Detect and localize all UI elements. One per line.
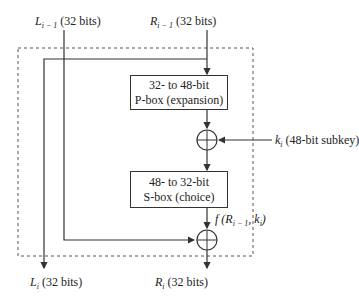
pbox-line1: 32- to 48-bit: [131, 78, 227, 93]
function-subscript: i − 1: [233, 219, 249, 228]
function-suffix: ): [262, 212, 266, 226]
left-input-label: Li − 1 (32 bits): [35, 14, 101, 33]
xor-output-icon: [197, 230, 217, 250]
right-output-bits: (32 bits): [168, 275, 208, 289]
xor-subkey-icon: [197, 130, 217, 150]
left-input-subscript: i − 1: [42, 21, 58, 30]
right-input-label: Ri − 1 (32 bits): [150, 14, 216, 33]
left-input-bits: (32 bits): [60, 14, 100, 28]
pbox-line2: P-box (expansion): [131, 93, 227, 108]
subkey-subscript: i: [280, 140, 282, 149]
right-output-label: Ri (32 bits): [155, 275, 208, 294]
function-label: f (Ri − 1, ki): [215, 212, 266, 231]
pbox-expansion: 32- to 48-bit P-box (expansion): [130, 75, 228, 110]
function-prefix: f (R: [215, 212, 233, 226]
right-input-subscript: i − 1: [157, 21, 173, 30]
left-output-symbol: L: [30, 275, 37, 289]
right-input-bits: (32 bits): [176, 14, 216, 28]
left-input-symbol: L: [35, 14, 42, 28]
left-output-bits: (32 bits): [42, 275, 82, 289]
sbox-choice: 48- to 32-bit S-box (choice): [130, 171, 228, 208]
subkey-text: (48-bit subkey): [286, 133, 359, 147]
function-middle: , k: [248, 212, 259, 226]
left-output-label: Li (32 bits): [30, 275, 82, 294]
sbox-line2: S-box (choice): [131, 190, 227, 205]
sbox-line1: 48- to 32-bit: [131, 175, 227, 190]
subkey-label: ki (48-bit subkey): [275, 133, 359, 152]
right-output-subscript: i: [162, 282, 164, 291]
left-output-subscript: i: [37, 282, 39, 291]
left-input-line: [64, 30, 194, 240]
